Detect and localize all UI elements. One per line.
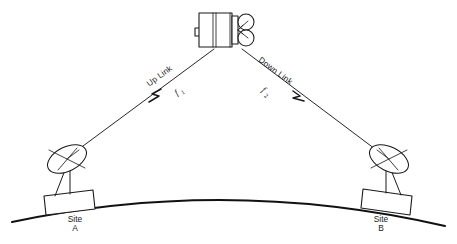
downlink-label-group: Down Link: [257, 55, 295, 86]
satellite-group: [195, 13, 254, 47]
uplink-frequency-group: f 1: [172, 84, 186, 98]
uplink-label-group: Up Link: [145, 63, 174, 88]
downlink-frequency-group: f 2: [259, 85, 273, 99]
uplink-frequency-subscript: 1: [179, 88, 186, 95]
satellite-body: [199, 13, 232, 47]
diagram-canvas: Up Link f 1 Down Link f 2: [0, 0, 457, 244]
downlink-arrow-icon: [293, 91, 304, 101]
site-a-label-line2: A: [72, 223, 78, 233]
downlink-label: Down Link: [257, 55, 295, 86]
site-b-label-line2: B: [378, 223, 384, 233]
uplink-beam-line: [79, 49, 214, 149]
satellite-link-diagram: Up Link f 1 Down Link f 2: [0, 0, 457, 244]
site-b-station-group: Site B: [361, 139, 413, 233]
uplink-beam-group: [79, 49, 214, 149]
site-a-station-group: Site A: [43, 139, 95, 233]
downlink-frequency-subscript: 2: [263, 92, 270, 99]
satellite-end-cap: [232, 16, 238, 44]
uplink-label: Up Link: [145, 63, 174, 88]
